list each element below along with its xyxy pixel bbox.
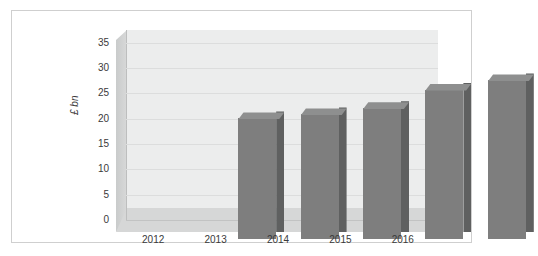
bar-side-face [463,83,471,232]
x-axis-tick-label: 2014 [267,235,289,245]
bar [488,80,526,239]
x-axis-ticks: 20122013201420152016 [116,11,438,256]
y-axis-tick-label: 30 [98,63,116,73]
x-axis-tick-label: 2015 [329,235,351,245]
chart-frame-border: 05101520253035 £ bn 20122013201420152016 [11,10,472,243]
y-axis-tick-label: 5 [103,190,116,200]
y-axis-label: £ bn [70,96,80,115]
bar-top-face [488,74,534,81]
x-axis-tick-label: 2013 [204,235,226,245]
y-axis-tick-label: 25 [98,88,116,98]
y-axis-tick-label: 15 [98,139,116,149]
bar-front-face [488,80,526,239]
y-axis-tick-label: 20 [98,114,116,124]
x-axis-tick-label: 2016 [392,235,414,245]
x-axis-tick-label: 2012 [142,235,164,245]
y-axis-tick-label: 0 [103,215,116,225]
y-axis-tick-label: 35 [98,38,116,48]
bar-side-face [526,73,534,232]
y-axis-tick-label: 10 [98,164,116,174]
